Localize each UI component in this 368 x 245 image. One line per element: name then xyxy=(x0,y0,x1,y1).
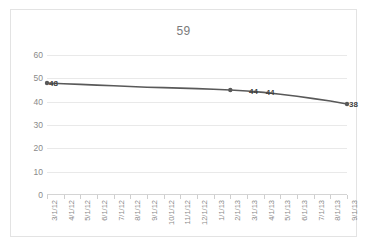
x-tickmark xyxy=(264,195,265,199)
x-tick-label: 9/1/13 xyxy=(350,200,359,221)
x-tick-label: 1/1/13 xyxy=(217,200,226,221)
x-tickmark xyxy=(230,195,231,199)
y-tick-label: 50 xyxy=(17,73,43,83)
x-tickmark xyxy=(314,195,315,199)
x-axis: 3/1/124/1/125/1/126/1/127/1/128/1/129/1/… xyxy=(47,200,347,244)
x-tickmark xyxy=(214,195,215,199)
y-tick-label: 0 xyxy=(17,190,43,200)
line-series xyxy=(47,55,347,195)
x-tick-label: 5/1/13 xyxy=(283,200,292,221)
x-tick-label: 5/1/12 xyxy=(83,200,92,221)
x-tick-label: 3/1/12 xyxy=(50,200,59,221)
x-tick-label: 6/1/13 xyxy=(300,200,309,221)
y-tick-label: 10 xyxy=(17,167,43,177)
x-tick-label: 11/1/12 xyxy=(183,200,192,224)
data-point-label: 44 xyxy=(249,86,258,95)
series-line xyxy=(47,83,347,104)
x-tickmark xyxy=(64,195,65,199)
data-point-label: 44 xyxy=(266,88,275,97)
x-tick-label: 4/1/13 xyxy=(267,200,276,221)
y-axis: 0102030405060 xyxy=(13,55,43,195)
x-tickmark xyxy=(147,195,148,199)
x-tickmark xyxy=(164,195,165,199)
x-axis-tickmarks xyxy=(47,195,347,199)
x-tick-label: 6/1/12 xyxy=(100,200,109,221)
x-tick-label: 3/1/13 xyxy=(250,200,259,221)
x-tickmark xyxy=(80,195,81,199)
x-tickmark xyxy=(97,195,98,199)
x-tickmark xyxy=(130,195,131,199)
x-tick-label: 4/1/12 xyxy=(67,200,76,221)
chart-frame: 59 0102030405060 48444438 3/1/124/1/125/… xyxy=(10,9,357,237)
x-tick-label: 12/1/12 xyxy=(200,200,209,225)
x-tick-label: 2/1/13 xyxy=(233,200,242,221)
x-tickmark xyxy=(114,195,115,199)
chart-title: 59 xyxy=(11,24,356,38)
x-tickmark xyxy=(297,195,298,199)
data-point-label: 48 xyxy=(49,79,58,88)
y-tick-label: 30 xyxy=(17,120,43,130)
x-tick-label: 8/1/13 xyxy=(333,200,342,221)
x-tick-label: 7/1/12 xyxy=(117,200,126,221)
x-tickmark xyxy=(47,195,48,199)
x-tickmark xyxy=(197,195,198,199)
x-tickmark xyxy=(247,195,248,199)
data-point-marker xyxy=(228,88,232,92)
x-tickmark xyxy=(180,195,181,199)
x-tickmark xyxy=(347,195,348,199)
x-tickmark xyxy=(330,195,331,199)
y-tick-label: 20 xyxy=(17,143,43,153)
data-point-label: 38 xyxy=(349,100,358,109)
x-tick-label: 9/1/12 xyxy=(150,200,159,221)
y-tick-label: 60 xyxy=(17,50,43,60)
y-tick-label: 40 xyxy=(17,97,43,107)
x-tickmark xyxy=(280,195,281,199)
x-tick-label: 7/1/13 xyxy=(317,200,326,221)
plot-area: 48444438 xyxy=(47,55,347,195)
x-tick-label: 8/1/12 xyxy=(133,200,142,221)
x-tick-label: 10/1/12 xyxy=(167,200,176,225)
